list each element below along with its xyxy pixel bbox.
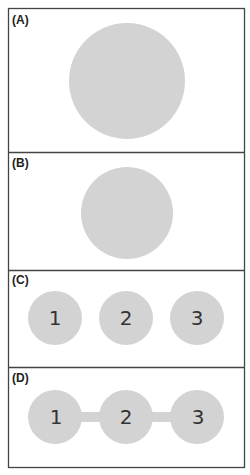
figure: (A) (B) (C) 1 2 3 (D) 1 2 3 <box>0 0 250 475</box>
panel-d-node-2-label: 2 <box>120 405 133 429</box>
panel-b-label: (B) <box>12 156 29 170</box>
panel-a-label: (A) <box>12 13 29 27</box>
panel-c-node-3-label: 3 <box>191 306 204 330</box>
panel-c-label: (C) <box>12 273 29 287</box>
panel-d-label: (D) <box>12 371 29 385</box>
panel-d-node-3-label: 3 <box>192 405 205 429</box>
panel-c-node-2-label: 2 <box>120 306 133 330</box>
panel-a-circle <box>69 23 185 139</box>
panel-d-node-1-label: 1 <box>50 405 63 429</box>
panel-b-circle <box>81 167 173 259</box>
panel-c-node-1-label: 1 <box>49 306 62 330</box>
